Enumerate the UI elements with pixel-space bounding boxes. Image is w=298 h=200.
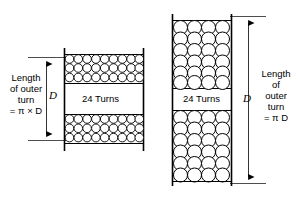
left-caption-line-3: turn xyxy=(2,94,50,105)
right-turns-label: 24 Turns xyxy=(183,93,220,104)
right-bottom-winding-circles xyxy=(174,111,230,183)
right-caption: Length of outer turn = π D xyxy=(254,68,298,123)
left-top-winding-circles xyxy=(65,55,143,82)
right-top-winding-circles xyxy=(174,21,230,90)
right-caption-line-2: of xyxy=(254,79,298,90)
left-caption-line-2: of outer xyxy=(2,83,50,94)
left-caption-line-1: Length xyxy=(2,72,50,83)
right-caption-line-4: turn xyxy=(254,101,298,112)
left-caption-line-4: = π × D xyxy=(2,105,50,116)
right-caption-line-3: outer xyxy=(254,90,298,101)
right-dimension-label-D: D xyxy=(243,92,251,104)
left-caption: Length of outer turn = π × D xyxy=(2,72,50,116)
right-caption-line-5: = π D xyxy=(254,112,298,123)
left-dimension-label-D: D xyxy=(49,89,57,101)
left-turns-label: 24 Turns xyxy=(82,93,119,104)
right-caption-line-1: Length xyxy=(254,68,298,79)
left-bottom-winding-circles xyxy=(65,115,143,142)
diagram-canvas: Length of outer turn = π × D D 24 Turns … xyxy=(0,0,298,200)
